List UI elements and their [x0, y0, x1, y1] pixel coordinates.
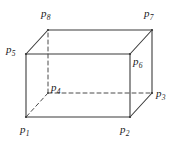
edge-p4-p1 [26, 93, 48, 117]
vertex-dot-p6 [129, 53, 131, 55]
vertex-label-p5: p5 [6, 44, 15, 55]
vertex-label-p3: p3 [156, 88, 165, 99]
vertex-dot-p7 [151, 29, 153, 31]
vertex-dot-p2 [129, 116, 131, 118]
vertex-label-subscript-p1: 1 [26, 129, 30, 138]
vertex-dot-p4 [47, 92, 49, 94]
vertex-label-letter-p2: p [120, 123, 126, 135]
vertex-label-subscript-p5: 5 [12, 49, 16, 58]
vertex-label-letter-p3: p [156, 87, 162, 99]
vertex-label-subscript-p4: 4 [57, 87, 61, 96]
vertex-label-p4: p4 [51, 82, 60, 93]
edge-layer [26, 30, 152, 117]
vertex-label-subscript-p3: 3 [162, 93, 166, 102]
vertex-label-letter-p6: p [133, 55, 139, 67]
edge-p2-p3 [130, 93, 152, 117]
vertex-label-p6: p6 [133, 56, 142, 67]
edge-p5-p8 [26, 30, 48, 54]
vertex-dot-p5 [25, 53, 27, 55]
vertex-label-subscript-p7: 7 [150, 13, 154, 22]
vertex-label-letter-p1: p [20, 123, 26, 135]
vertex-dot-p1 [25, 116, 27, 118]
vertex-label-letter-p4: p [51, 81, 57, 93]
vertex-label-subscript-p6: 6 [139, 61, 143, 70]
vertex-label-p2: p2 [120, 124, 129, 135]
vertex-label-subscript-p2: 2 [126, 129, 130, 138]
figure-canvas: p1p2p3p4p5p6p7p8 [0, 0, 175, 146]
vertex-dot-p8 [47, 29, 49, 31]
vertex-label-p7: p7 [144, 8, 153, 19]
vertex-label-p1: p1 [20, 124, 29, 135]
vertex-label-letter-p8: p [41, 7, 47, 19]
vertex-label-letter-p7: p [144, 7, 150, 19]
vertex-label-p8: p8 [41, 8, 50, 19]
vertex-dot-layer [25, 29, 153, 118]
vertex-label-subscript-p8: 8 [47, 13, 51, 22]
vertex-label-letter-p5: p [6, 43, 12, 55]
vertex-dot-p3 [151, 92, 153, 94]
edge-p6-p7 [130, 30, 152, 54]
